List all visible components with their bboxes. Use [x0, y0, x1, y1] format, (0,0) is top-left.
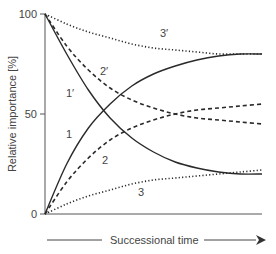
- curve-label-1: 1: [66, 128, 72, 140]
- chart: 100 50 0 Relative importance [%] Success…: [0, 0, 276, 254]
- curve-3: [45, 170, 262, 214]
- curve-label-1p: 1′: [66, 87, 74, 99]
- x-axis-arrow-icon: [256, 235, 266, 245]
- y-axis-title: Relative importance [%]: [6, 56, 18, 172]
- x-axis-title: Successional time: [110, 234, 199, 246]
- curves: [45, 14, 262, 214]
- curve-1p: [45, 14, 262, 174]
- curve-1: [45, 54, 262, 214]
- curve-label-3: 3: [138, 186, 144, 198]
- curve-3p: [45, 14, 262, 54]
- y-tick-label-0: 0: [31, 208, 37, 220]
- y-tick-label-100: 100: [19, 8, 37, 20]
- curve-label-3p: 3′: [160, 27, 168, 39]
- y-tick-label-50: 50: [25, 108, 37, 120]
- curve-label-2p: 2′: [100, 65, 108, 77]
- curve-label-2: 2: [102, 154, 108, 166]
